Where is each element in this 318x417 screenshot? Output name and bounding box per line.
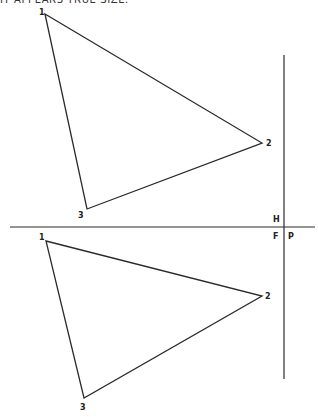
top-vertex-1-label: 1 [39,8,45,17]
front-vertex-2-label: 2 [265,292,271,301]
top-vertex-2-label: 2 [266,139,272,148]
top-vertex-3-label: 3 [78,211,84,220]
front-view-triangle [46,241,262,398]
front-vertex-1-label: 1 [39,233,45,242]
fold-label-p: P [288,232,294,241]
fold-label-f: F [273,232,278,241]
top-view-triangle [45,14,262,209]
projection-drawing: H F P 1 2 3 1 2 3 [0,0,318,417]
fold-label-h: H [273,215,280,224]
front-vertex-3-label: 3 [80,403,86,412]
